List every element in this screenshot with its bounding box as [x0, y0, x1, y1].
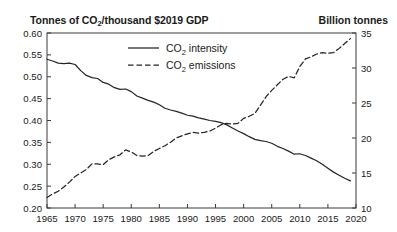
- x-axis-tick-label: 1980: [121, 213, 142, 224]
- x-axis-tick-label: 1975: [93, 213, 114, 224]
- legend-label-intensity: CO2 intensity: [166, 42, 228, 57]
- x-axis-tick-label: 2005: [261, 213, 282, 224]
- chart-generated-content: 0.200.250.300.350.400.450.500.550.601015…: [23, 28, 371, 224]
- left-axis-title: Tonnes of CO2/thousand $2019 GDP: [30, 14, 209, 26]
- left-axis-tick-label: 0.20: [23, 203, 42, 214]
- x-axis-tick-label: 1970: [64, 213, 85, 224]
- x-axis-tick-label: 2020: [345, 213, 366, 224]
- x-axis-tick-label: 1995: [205, 213, 226, 224]
- right-axis-tick-label: 30: [361, 63, 372, 74]
- left-axis-tick-label: 0.50: [23, 71, 42, 82]
- x-axis-tick-label: 1965: [36, 213, 57, 224]
- x-axis-tick-label: 2000: [233, 213, 254, 224]
- right-axis-tick-label: 10: [361, 203, 372, 214]
- subscript-2: 2: [97, 19, 101, 28]
- right-axis-tick-label: 15: [361, 168, 372, 179]
- chart-plot-area: 0.200.250.300.350.400.450.500.550.601015…: [0, 28, 397, 232]
- left-axis-tick-label: 0.40: [23, 115, 42, 126]
- series-line-intensity: [47, 59, 350, 181]
- x-axis-tick-label: 2015: [317, 213, 338, 224]
- left-axis-tick-label: 0.30: [23, 159, 42, 170]
- x-axis-tick-label: 1985: [149, 213, 170, 224]
- chart-figure: Tonnes of CO2/thousand $2019 GDP Billion…: [0, 0, 397, 232]
- right-axis-tick-label: 25: [361, 98, 372, 109]
- right-axis-title: Billion tonnes: [319, 14, 388, 26]
- left-axis-tick-label: 0.35: [23, 137, 42, 148]
- legend-label-emissions: CO2 emissions: [166, 59, 236, 74]
- left-axis-tick-label: 0.55: [23, 49, 42, 60]
- left-axis-tick-label: 0.25: [23, 181, 42, 192]
- right-axis-tick-label: 20: [361, 133, 372, 144]
- right-axis-tick-label: 35: [361, 28, 372, 39]
- left-axis-tick-label: 0.60: [23, 28, 42, 39]
- x-axis-tick-label: 2010: [289, 213, 310, 224]
- left-axis-tick-label: 0.45: [23, 93, 42, 104]
- x-axis-tick-label: 1990: [177, 213, 198, 224]
